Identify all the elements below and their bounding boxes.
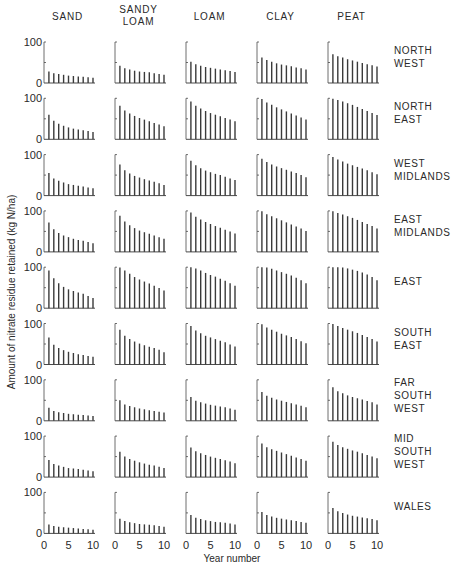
y-tick-label: 100 bbox=[24, 318, 42, 330]
small-multiples-chart: SANDSANDYLOAMLOAMCLAYPEAT NORTHWESTNORTH… bbox=[0, 0, 455, 570]
x-tick-label: 10 bbox=[229, 539, 241, 551]
panel bbox=[115, 380, 166, 421]
panel: 1000 bbox=[24, 149, 95, 202]
panel bbox=[328, 267, 379, 308]
y-tick-label: 0 bbox=[36, 77, 42, 89]
row-label: EAST bbox=[394, 340, 423, 351]
panel: 1000 bbox=[24, 430, 95, 483]
x-tick-labels: 05100510051005100510 bbox=[41, 539, 383, 551]
panel bbox=[257, 42, 308, 83]
y-tick-label: 100 bbox=[24, 261, 42, 273]
panel bbox=[257, 155, 308, 196]
panel: 1000 bbox=[24, 318, 95, 371]
x-tick-label: 10 bbox=[300, 539, 312, 551]
panel bbox=[328, 42, 379, 83]
y-tick-label: 0 bbox=[36, 471, 42, 483]
row-label: MIDLANDS bbox=[394, 171, 450, 182]
row-label: SOUTH bbox=[394, 446, 432, 457]
row-label: EAST bbox=[394, 214, 423, 225]
x-tick-label: 0 bbox=[183, 539, 189, 551]
x-tick-label: 10 bbox=[158, 539, 170, 551]
panel bbox=[257, 436, 308, 477]
panel: 1000 bbox=[24, 261, 95, 314]
y-tick-label: 100 bbox=[24, 205, 42, 217]
y-tick-label: 0 bbox=[36, 190, 42, 202]
x-tick-label: 10 bbox=[371, 539, 383, 551]
row-label: NORTH bbox=[394, 45, 432, 56]
panel: 1000 bbox=[24, 92, 95, 145]
panel bbox=[186, 155, 237, 196]
x-tick-label: 0 bbox=[325, 539, 331, 551]
row-labels: NORTHWESTNORTHEASTWESTMIDLANDSEASTMIDLAN… bbox=[394, 45, 450, 512]
panel bbox=[328, 380, 379, 421]
panel bbox=[186, 267, 237, 308]
column-title: SANDY bbox=[119, 4, 157, 15]
x-tick-label: 5 bbox=[278, 539, 284, 551]
panel bbox=[328, 98, 379, 139]
panel bbox=[186, 98, 237, 139]
row-label: SOUTH bbox=[394, 390, 432, 401]
x-tick-label: 10 bbox=[87, 539, 99, 551]
panel bbox=[328, 492, 379, 533]
y-tick-label: 0 bbox=[36, 246, 42, 258]
row-label: WALES bbox=[394, 501, 432, 512]
panel bbox=[115, 324, 166, 365]
x-tick-label: 5 bbox=[65, 539, 71, 551]
panel: 1000 bbox=[24, 374, 95, 427]
row-label: SOUTH bbox=[394, 327, 432, 338]
column-title: LOAM bbox=[123, 16, 155, 27]
column-title: SAND bbox=[52, 11, 83, 22]
y-tick-label: 0 bbox=[36, 359, 42, 371]
panel bbox=[115, 436, 166, 477]
row-label: MID bbox=[394, 433, 414, 444]
row-label: EAST bbox=[394, 276, 423, 287]
panel bbox=[186, 324, 237, 365]
panel bbox=[115, 492, 166, 533]
panel bbox=[115, 42, 166, 83]
column-title: CLAY bbox=[266, 11, 295, 22]
panel: 1000 bbox=[24, 205, 95, 258]
column-title: LOAM bbox=[194, 11, 226, 22]
panel: 1000 bbox=[24, 36, 95, 89]
panel bbox=[328, 436, 379, 477]
column-title: PEAT bbox=[337, 11, 366, 22]
panel bbox=[186, 436, 237, 477]
row-label: WEST bbox=[394, 158, 425, 169]
y-tick-label: 100 bbox=[24, 149, 42, 161]
panel bbox=[115, 211, 166, 252]
panels: 100010001000100010001000100010001000 bbox=[24, 36, 379, 539]
y-tick-label: 100 bbox=[24, 430, 42, 442]
row-label: EAST bbox=[394, 114, 423, 125]
panel bbox=[186, 211, 237, 252]
x-tick-label: 0 bbox=[112, 539, 118, 551]
panel: 1000 bbox=[24, 486, 95, 539]
panel bbox=[257, 380, 308, 421]
panel bbox=[115, 267, 166, 308]
row-label: WEST bbox=[394, 459, 425, 470]
row-label: MIDLANDS bbox=[394, 227, 450, 238]
panel bbox=[115, 155, 166, 196]
panel bbox=[115, 98, 166, 139]
y-tick-label: 0 bbox=[36, 415, 42, 427]
panel bbox=[257, 267, 308, 308]
row-label: FAR bbox=[394, 377, 415, 388]
y-tick-label: 100 bbox=[24, 374, 42, 386]
row-label: WEST bbox=[394, 58, 425, 69]
panel bbox=[328, 155, 379, 196]
x-tick-label: 5 bbox=[207, 539, 213, 551]
column-titles: SANDSANDYLOAMLOAMCLAYPEAT bbox=[52, 4, 366, 27]
row-label: NORTH bbox=[394, 101, 432, 112]
y-tick-label: 0 bbox=[36, 302, 42, 314]
panel bbox=[257, 98, 308, 139]
y-tick-label: 100 bbox=[24, 486, 42, 498]
y-tick-label: 100 bbox=[24, 92, 42, 104]
panel bbox=[257, 492, 308, 533]
y-tick-label: 100 bbox=[24, 36, 42, 48]
panel bbox=[186, 380, 237, 421]
x-axis-title: Year number bbox=[204, 553, 262, 564]
row-label: WEST bbox=[394, 403, 425, 414]
panel bbox=[257, 324, 308, 365]
x-tick-label: 0 bbox=[41, 539, 47, 551]
panel bbox=[328, 324, 379, 365]
panel bbox=[186, 42, 237, 83]
